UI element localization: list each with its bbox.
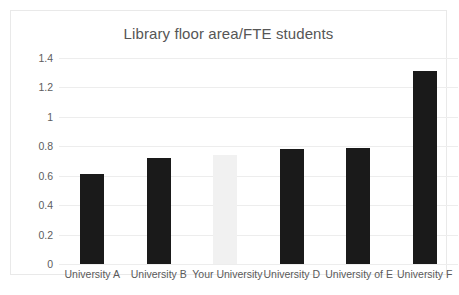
y-axis-tick-label: 0.6	[19, 170, 53, 182]
y-axis-tick-label: 1.2	[19, 81, 53, 93]
bar-group	[192, 58, 259, 264]
y-axis-tick-label: 1.4	[19, 52, 53, 64]
chart-title: Library floor area/FTE students	[11, 25, 446, 42]
y-axis-tick-label: 0	[19, 258, 53, 270]
bar-group	[392, 58, 459, 264]
bar[interactable]	[147, 158, 171, 264]
chart-container: Library floor area/FTE students 00.20.40…	[10, 10, 447, 275]
y-axis-tick-label: 1	[19, 111, 53, 123]
bar[interactable]	[413, 71, 437, 264]
y-axis-tick-label: 0.2	[19, 229, 53, 241]
bar-group	[59, 58, 126, 264]
bar-group	[259, 58, 326, 264]
x-axis-tick-label: University B	[126, 268, 192, 280]
plot-area	[59, 58, 458, 264]
x-axis-tick-label: University F	[392, 268, 458, 280]
bar-group	[126, 58, 193, 264]
x-axis-tick-label: University A	[59, 268, 125, 280]
x-axis-tick-label: Your University	[192, 268, 258, 280]
y-axis-tick-label: 0.8	[19, 140, 53, 152]
bar[interactable]	[280, 149, 304, 265]
x-axis-tick-label: University of E	[325, 268, 391, 280]
bar[interactable]	[80, 174, 104, 264]
x-axis: University AUniversity BYour UniversityU…	[59, 266, 458, 286]
bar[interactable]	[346, 148, 370, 264]
bar[interactable]	[213, 155, 237, 264]
bar-group	[325, 58, 392, 264]
y-axis: 00.20.40.60.811.21.4	[17, 58, 53, 264]
x-axis-tick-label: University D	[259, 268, 325, 280]
gridline	[59, 264, 458, 265]
y-axis-tick-label: 0.4	[19, 199, 53, 211]
